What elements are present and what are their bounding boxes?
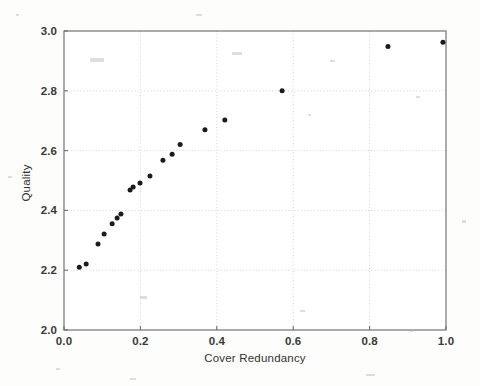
x-tick-label: 0.8 [361,335,378,347]
x-tick-label: 0.2 [132,335,148,347]
y-tick-label: 2.6 [41,145,57,157]
data-point [118,211,123,216]
data-point [202,127,207,132]
y-tick-label: 2.8 [41,85,58,97]
data-point [131,185,136,190]
data-point [138,180,143,185]
x-tick-label: 0.6 [285,335,301,347]
plot-canvas: 0.00.20.40.60.81.0 2.02.22.42.62.83.0 Co… [0,0,480,386]
data-point [280,88,285,93]
data-point [102,232,107,237]
data-point [147,174,152,179]
data-point [440,40,445,45]
y-axis-title: Quality [20,164,32,201]
y-tick-label: 2.4 [41,204,58,216]
data-point [178,142,183,147]
data-point [84,261,89,266]
x-tick-label: 0.0 [56,335,72,347]
data-point [110,221,115,226]
y-tick-label: 2.0 [41,324,57,336]
x-tick-label: 0.4 [209,335,226,347]
data-point [115,215,120,220]
x-tick-label: 1.0 [438,335,454,347]
data-point [96,241,101,246]
data-point [77,265,82,270]
scatter-plot-figure: 0.00.20.40.60.81.0 2.02.22.42.62.83.0 Co… [0,0,480,386]
x-axis-title: Cover Redundancy [204,352,306,364]
axes-background [64,31,446,330]
data-point [222,118,227,123]
data-point [385,44,390,49]
y-tick-label: 2.2 [41,264,57,276]
y-tick-label: 3.0 [41,25,57,37]
data-point [160,158,165,163]
data-point [170,152,175,157]
